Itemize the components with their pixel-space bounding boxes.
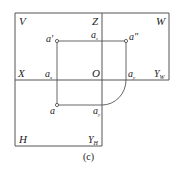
point-a-prime <box>55 39 58 42</box>
label-a: a <box>50 105 55 116</box>
point-a <box>55 103 58 106</box>
label-ay-h: ay <box>93 105 101 117</box>
label-X: X <box>17 67 26 79</box>
label-Yh: YH <box>88 134 99 146</box>
label-Yw: YW <box>154 68 166 80</box>
label-a-prime: a′ <box>46 33 54 44</box>
label-O: O <box>92 67 100 79</box>
point-a-double-prime <box>124 39 127 42</box>
label-H: H <box>18 133 28 145</box>
transfer-arc <box>102 80 126 105</box>
label-ax: ax <box>45 68 53 80</box>
label-az: az <box>91 29 98 41</box>
caption: (c) <box>83 151 94 163</box>
label-V: V <box>19 15 27 27</box>
label-a-double-prime: a″ <box>129 31 139 42</box>
label-W: W <box>156 15 166 27</box>
label-ay-w: ay <box>128 68 136 80</box>
projection-diagram: V Z W X O YW H YH a′ a″ a ax az ay ay (c… <box>0 0 177 169</box>
label-Z: Z <box>92 15 99 27</box>
